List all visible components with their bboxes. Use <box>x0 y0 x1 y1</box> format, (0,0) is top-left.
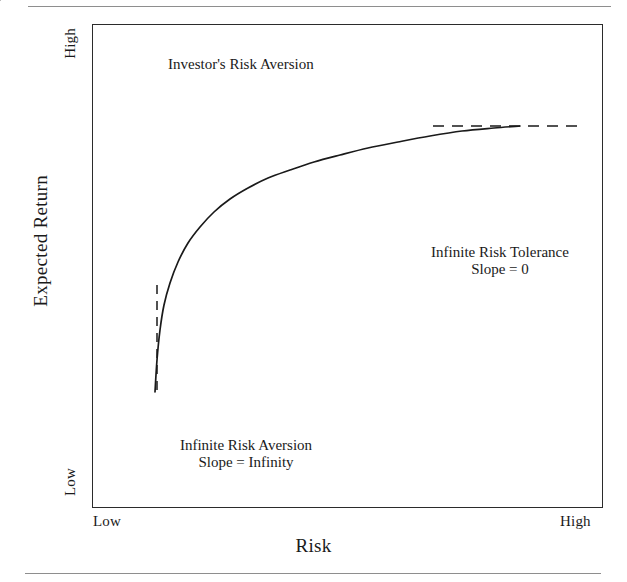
x-axis-title: Risk <box>0 535 627 557</box>
annotation-infinite-risk-aversion: Infinite Risk Aversion Slope = Infinity <box>150 437 342 471</box>
annotation-aversion-line-1: Infinite Risk Aversion <box>150 437 342 454</box>
annotation-infinite-risk-tolerance: Infinite Risk Tolerance Slope = 0 <box>404 244 596 278</box>
x-axis-tick-low: Low <box>93 513 121 530</box>
figure-container: High Low Low High Expected Return Risk I… <box>0 0 627 582</box>
y-axis-title: Expected Return <box>30 175 52 307</box>
annotation-tolerance-line-2: Slope = 0 <box>404 261 596 278</box>
y-axis-tick-low: Low <box>62 468 79 496</box>
x-axis-tick-high: High <box>560 513 591 530</box>
annotation-aversion-line-2: Slope = Infinity <box>150 454 342 471</box>
y-axis-tick-high: High <box>62 28 79 59</box>
annotation-investor-risk-aversion: Investor's Risk Aversion <box>168 56 314 73</box>
chart-canvas <box>0 0 627 582</box>
annotation-tolerance-line-1: Infinite Risk Tolerance <box>404 244 596 261</box>
